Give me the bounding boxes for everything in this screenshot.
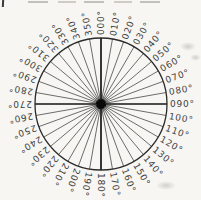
degree-label: 000° bbox=[96, 10, 106, 35]
scan-artifact-corner-tick bbox=[2, 0, 4, 7]
scan-artifact-top-line bbox=[28, 1, 161, 3]
degree-label: 180° bbox=[96, 173, 106, 198]
degree-label: 270° bbox=[7, 99, 32, 109]
compass-rose-diagram: 000°010°020°030°040°050°060°070°080°090°… bbox=[0, 0, 201, 200]
hub-center-dot bbox=[98, 101, 104, 107]
scan-artifact-smudge bbox=[180, 42, 196, 51]
scan-artifact-smudge bbox=[156, 181, 176, 190]
degree-label: 090° bbox=[170, 99, 195, 109]
scan-artifact-smudge bbox=[190, 54, 201, 61]
